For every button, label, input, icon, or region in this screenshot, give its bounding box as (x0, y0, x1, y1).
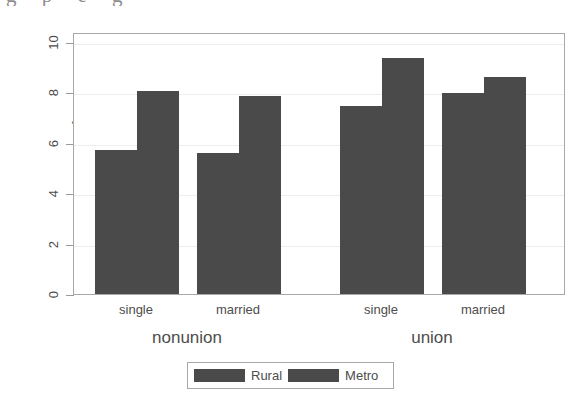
legend-swatch-metro (288, 369, 339, 382)
y-tick-label: 10 (46, 32, 61, 54)
x-group-label: union (352, 328, 512, 348)
y-tick-mark (66, 295, 74, 296)
y-tick-label: 6 (46, 132, 61, 154)
cropped-caption-text: g p e g (6, 0, 133, 6)
bars-layer (74, 34, 564, 294)
bar-metro-3 (484, 77, 526, 294)
legend-entry-metro: Metro (288, 368, 378, 383)
legend-label-metro: Metro (345, 368, 378, 383)
bar-metro-2 (382, 58, 424, 294)
y-tick-label: 4 (46, 183, 61, 205)
bar-chart: g p e g mean of wage 0246810 singlemarri… (0, 0, 585, 411)
y-tick-label: 2 (46, 233, 61, 255)
bar-metro-1 (239, 96, 281, 294)
legend-entry-rural: Rural (194, 368, 282, 383)
x-tick-label: married (433, 302, 533, 317)
legend: Rural Metro (187, 362, 394, 389)
y-tick-label: 8 (46, 82, 61, 104)
x-tick-label: single (86, 302, 186, 317)
legend-label-rural: Rural (251, 368, 282, 383)
bar-metro-0 (137, 91, 179, 294)
cropped-caption-sliver: g p e g (0, 0, 585, 6)
x-tick-label: married (188, 302, 288, 317)
legend-swatch-rural (194, 369, 245, 382)
bar-rural-2 (340, 106, 382, 294)
bar-rural-3 (442, 93, 484, 294)
x-tick-label: single (331, 302, 431, 317)
x-group-label: nonunion (107, 328, 267, 348)
bar-rural-0 (95, 150, 137, 294)
plot-area (73, 33, 565, 295)
y-tick-label: 0 (46, 284, 61, 306)
bar-rural-1 (197, 153, 239, 294)
